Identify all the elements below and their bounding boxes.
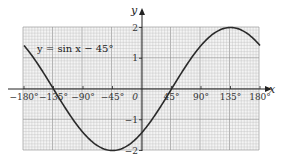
x-tick-label: 135° <box>220 92 242 102</box>
y-axis-label: y <box>130 4 138 17</box>
x-tick-label: −90° <box>71 92 95 102</box>
sine-chart: −180°−135°−90°−45°045°90°135°180°−2−112 … <box>0 0 287 161</box>
y-tick-label: −1 <box>125 115 138 125</box>
x-axis-label: x <box>269 83 276 96</box>
y-axis-arrow-icon <box>139 8 145 15</box>
y-tick-label: 2 <box>132 23 138 33</box>
equation-label: y = sin x − 45° <box>36 43 113 54</box>
x-tick-label: 45° <box>164 92 180 102</box>
x-tick-label: −180° <box>9 92 38 102</box>
x-tick-label: −45° <box>101 92 125 102</box>
y-tick-label: 1 <box>132 53 138 63</box>
x-tick-label: −135° <box>39 92 68 102</box>
x-tick-label: 0 <box>132 92 138 102</box>
x-tick-label: 90° <box>193 92 209 102</box>
y-tick-label: −2 <box>125 146 138 156</box>
x-tick-label: 180° <box>249 92 271 102</box>
